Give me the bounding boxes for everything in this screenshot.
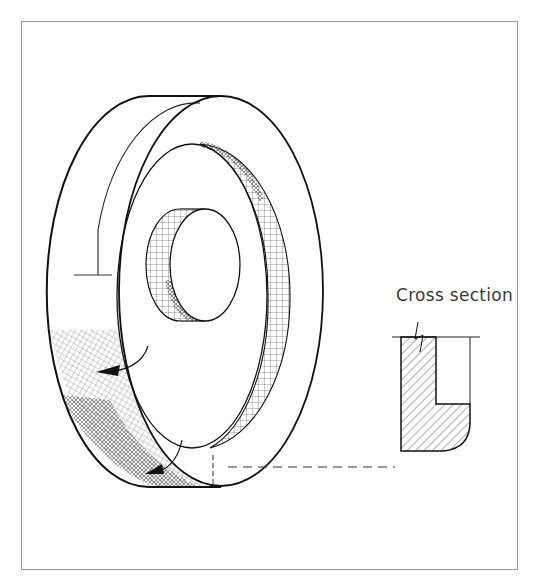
cross-section-label: Cross section [396,285,513,305]
cross-section [392,322,480,451]
hub [146,209,240,321]
